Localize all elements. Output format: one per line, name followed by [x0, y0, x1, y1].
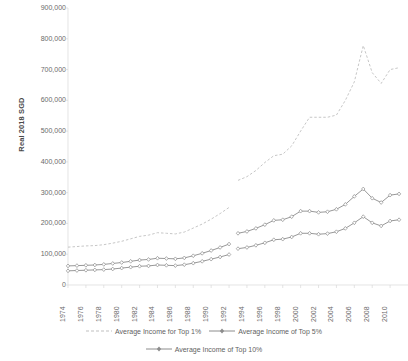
- legend-item-top-5[interactable]: Average Income of Top 5%: [209, 327, 322, 335]
- series-marker: [129, 265, 132, 269]
- series-marker: [263, 241, 266, 245]
- x-axis-tick: 1978: [95, 292, 102, 322]
- series-marker: [299, 209, 302, 213]
- x-axis-tick: 2008: [363, 292, 370, 322]
- series-marker: [236, 247, 239, 251]
- series-marker: [75, 264, 78, 268]
- series-marker: [192, 261, 195, 265]
- series-marker: [201, 251, 204, 255]
- series-marker: [129, 259, 132, 263]
- series-marker: [120, 266, 123, 270]
- x-axis-tick: 2000: [292, 292, 299, 322]
- series-marker: [263, 223, 266, 227]
- x-axis-tick: 1982: [131, 292, 138, 322]
- series-marker: [281, 237, 284, 241]
- legend-row-2: Average Income of Top 10%: [0, 340, 408, 358]
- series-marker: [201, 259, 204, 263]
- series-line: [238, 46, 399, 181]
- series-marker: [93, 263, 96, 267]
- plot-svg: [68, 8, 408, 285]
- series-marker: [165, 257, 168, 261]
- series-marker: [317, 232, 320, 236]
- x-axis-tick: 1976: [77, 292, 84, 322]
- series-marker: [272, 238, 275, 242]
- series-marker: [254, 243, 257, 247]
- legend-label-top-5: Average Income of Top 5%: [238, 328, 322, 335]
- series-marker: [379, 224, 382, 228]
- x-axis-tick-labels: 1974197619781980198219841986198819901992…: [68, 288, 408, 322]
- series-marker: [102, 262, 105, 266]
- series-marker: [290, 215, 293, 219]
- series-marker: [111, 262, 114, 266]
- x-axis-tick: 1994: [238, 292, 245, 322]
- x-axis-tick: 2002: [310, 292, 317, 322]
- legend-line-marker-swatch-icon: [209, 327, 235, 335]
- x-axis-tick: 1974: [59, 292, 66, 322]
- series-marker: [299, 231, 302, 235]
- series-marker: [344, 226, 347, 230]
- legend-item-top-10[interactable]: Average Income of Top 10%: [146, 345, 263, 353]
- series-marker: [111, 267, 114, 271]
- series-marker: [156, 256, 159, 260]
- series-marker: [326, 232, 329, 236]
- y-axis-tick: 800,000: [8, 35, 66, 43]
- series-marker: [66, 264, 69, 268]
- series-marker: [93, 268, 96, 272]
- series-marker: [254, 226, 257, 230]
- y-axis-tick-labels: 900,000800,000700,000600,000500,000400,0…: [0, 0, 66, 300]
- y-axis-tick: 400,000: [8, 158, 66, 166]
- series-marker: [317, 210, 320, 214]
- x-axis-tick: 1990: [202, 292, 209, 322]
- line-chart: Real 2018 SGD 900,000800,000700,000600,0…: [0, 0, 408, 361]
- y-axis-tick: 300,000: [8, 189, 66, 197]
- series-marker: [165, 263, 168, 267]
- legend-label-top-10: Average Income of Top 10%: [175, 346, 263, 353]
- y-axis-tick: 500,000: [8, 127, 66, 135]
- x-axis-tick: 1996: [256, 292, 263, 322]
- series-marker: [120, 261, 123, 265]
- y-axis-tick: 100,000: [8, 250, 66, 258]
- series-marker: [84, 268, 87, 272]
- series-line: [68, 244, 229, 266]
- legend-item-top-1[interactable]: Average Income for Top 1%: [86, 327, 201, 335]
- chart-legend: Average Income for Top 1% Average Income…: [0, 322, 408, 361]
- series-marker: [245, 230, 248, 234]
- x-axis-tick: 1984: [148, 292, 155, 322]
- series-marker: [388, 219, 391, 223]
- series-marker: [183, 263, 186, 267]
- legend-line-marker-swatch-icon: [146, 345, 172, 353]
- series-marker: [138, 264, 141, 268]
- series-marker: [84, 263, 87, 267]
- series-marker: [227, 253, 230, 257]
- x-axis-tick: 2004: [327, 292, 334, 322]
- x-axis-tick: 2010: [381, 292, 388, 322]
- series-marker: [147, 258, 150, 262]
- series-marker: [308, 209, 311, 213]
- series-marker: [272, 218, 275, 222]
- y-axis-tick: 600,000: [8, 96, 66, 104]
- series-marker: [335, 207, 338, 211]
- series-marker: [147, 264, 150, 268]
- series-marker: [209, 249, 212, 253]
- x-axis-tick: 1988: [184, 292, 191, 322]
- x-axis-tick: 1986: [166, 292, 173, 322]
- x-axis-tick: 1992: [220, 292, 227, 322]
- series-marker: [192, 254, 195, 258]
- series-line: [68, 255, 229, 271]
- series-marker: [209, 257, 212, 261]
- series-marker: [102, 268, 105, 272]
- y-axis-tick: 0: [8, 281, 66, 289]
- series-marker: [174, 264, 177, 268]
- series-marker: [245, 246, 248, 250]
- series-marker: [308, 231, 311, 235]
- series-marker: [236, 231, 239, 235]
- y-axis-tick: 900,000: [8, 4, 66, 12]
- series-marker: [156, 263, 159, 267]
- series-marker: [290, 235, 293, 239]
- series-marker: [397, 218, 400, 222]
- series-marker: [326, 210, 329, 214]
- series-marker: [174, 257, 177, 261]
- plot-area: [68, 8, 408, 285]
- series-marker: [183, 256, 186, 260]
- legend-row-1: Average Income for Top 1% Average Income…: [0, 322, 408, 340]
